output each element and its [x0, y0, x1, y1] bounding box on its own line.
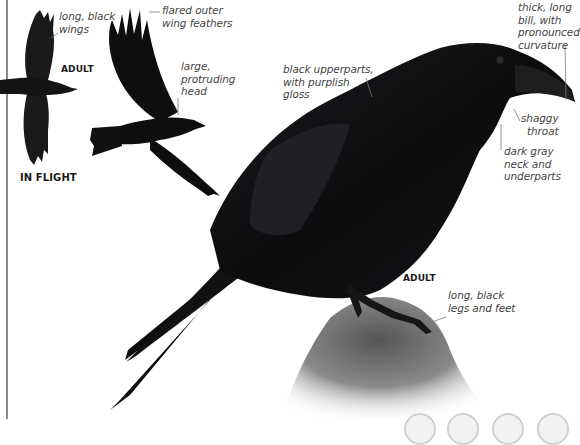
annotation-black-upperparts: black upperparts, with purplish gloss	[283, 63, 374, 101]
raven-flight-sideview	[90, 8, 220, 196]
annotation-large-protruding-head: large, protruding head	[181, 60, 235, 98]
in-flight-section-label: IN FLIGHT	[20, 172, 77, 183]
annotation-thick-long-bill: thick, long bill, with pronounced curvat…	[518, 1, 580, 51]
perched-age-label: ADULT	[403, 273, 436, 283]
annotation-long-black-legs: long, black legs and feet	[448, 289, 515, 314]
annotation-shaggy-throat: shaggy throat	[521, 112, 559, 137]
annotation-long-black-wings: long, black wings	[59, 10, 115, 35]
annotation-dark-gray-neck: dark gray neck and underparts	[504, 145, 561, 183]
annotation-flared-outer-wing-feathers: flared outer wing feathers	[162, 4, 232, 29]
flight-age-label: ADULT	[61, 64, 94, 74]
